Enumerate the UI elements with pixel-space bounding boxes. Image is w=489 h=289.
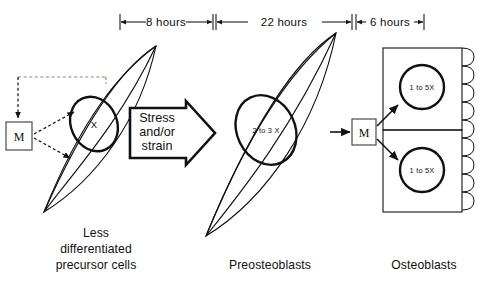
arrow-m-to-osteoblast-top <box>377 105 398 126</box>
preosteoblast-nucleus-label: 2 to 3 X <box>252 126 279 135</box>
caption-preosteoblasts: Preosteoblasts <box>229 258 311 272</box>
caption-precursor-line-3: precursor cells <box>56 258 137 272</box>
mechanostat-signal-up <box>34 112 74 134</box>
timeline-label-6-hours: 6 hours <box>370 16 410 28</box>
preosteoblast-cell: 2 to 3 X <box>206 33 336 236</box>
mechanostat-box-right-label: M <box>359 126 370 140</box>
precursor-nucleus-label: X <box>91 119 98 130</box>
stress-strain-arrow: Stress and/or strain <box>130 101 215 165</box>
osteoblast-nucleus-top-label: 1 to 5X <box>410 83 435 92</box>
timeline-segment-22-hours: 22 hours <box>217 16 351 28</box>
arrow-m-to-osteoblast-bottom <box>377 139 398 160</box>
timeline-label-22-hours: 22 hours <box>261 16 307 28</box>
timeline-ruler: 8 hours 22 hours 6 hours <box>120 14 424 30</box>
stress-label-line-1: Stress <box>139 111 175 125</box>
timeline-segment-6-hours: 6 hours <box>357 16 423 28</box>
stage-captions: Less differentiated precursor cells Preo… <box>56 226 457 272</box>
stress-label-line-2: and/or <box>139 125 175 139</box>
bone-matrix-scalloped-edge <box>462 48 474 210</box>
mechanostat-right-group: M <box>352 105 398 160</box>
stress-label-line-3: strain <box>142 139 173 153</box>
mechanostat-box-left-label: M <box>14 130 25 144</box>
osteoblast-panel: 1 to 5X 1 to 5X <box>383 48 474 212</box>
caption-precursor-line-1: Less <box>83 226 109 240</box>
caption-precursor-line-2: differentiated <box>60 242 132 256</box>
timeline-segment-8-hours: 8 hours <box>121 16 212 28</box>
caption-osteoblasts: Osteoblasts <box>391 258 456 272</box>
mechanostat-signal-down <box>34 138 70 158</box>
timeline-label-8-hours: 8 hours <box>146 16 186 28</box>
osteoblast-nucleus-bottom-label: 1 to 5X <box>410 166 435 175</box>
bone-cell-differentiation-diagram: 8 hours 22 hours 6 hours X <box>0 0 489 289</box>
figure-canvas: 8 hours 22 hours 6 hours X <box>0 0 489 289</box>
